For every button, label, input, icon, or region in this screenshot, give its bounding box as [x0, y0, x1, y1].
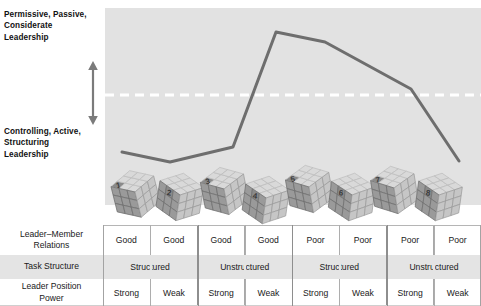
table-cell: Poor — [387, 225, 434, 255]
table-cell: Poor — [434, 225, 481, 255]
table-cell: Strong — [387, 279, 434, 306]
table-cell: Good — [245, 225, 292, 255]
table-row: Leader–MemberRelationsGoodGoodGoodGoodPo… — [0, 225, 481, 255]
row-label-2: Leader PositionPower — [0, 279, 103, 306]
table-cell: Good — [198, 225, 245, 255]
table-row: Leader PositionPowerStrongWeakStrongWeak… — [0, 279, 481, 306]
table-row: Task StructureStructuredUnstructuredStru… — [0, 255, 481, 279]
row-label-line: Leader Position — [0, 281, 103, 292]
row-label-1: Task Structure — [0, 255, 103, 279]
table-column-divider — [387, 225, 388, 306]
row-label-line: Task Structure — [0, 261, 103, 272]
cube-8: 8 — [403, 159, 475, 231]
table-cell: Strong — [103, 279, 150, 306]
table-cell: Good — [150, 225, 197, 255]
table-cell: Strong — [292, 279, 339, 306]
divider-mask — [339, 255, 341, 279]
table-cell: Weak — [434, 279, 481, 306]
row-label-line: Leader–Member — [0, 229, 103, 240]
divider-mask — [244, 255, 246, 279]
table-column-divider — [198, 225, 199, 306]
table-cell: Weak — [150, 279, 197, 306]
divider-mask — [433, 255, 435, 279]
row-label-0: Leader–MemberRelations — [0, 225, 103, 255]
table-cell: Strong — [198, 279, 245, 306]
table-cell: Poor — [339, 225, 386, 255]
row-label-line: Power — [0, 293, 103, 304]
divider-mask — [150, 255, 152, 279]
table-cell: Poor — [292, 225, 339, 255]
table-left-divider — [103, 225, 104, 306]
row-label-line: Relations — [0, 240, 103, 251]
table-cell: Weak — [339, 279, 386, 306]
table-cell: Good — [103, 225, 150, 255]
conditions-table: Leader–MemberRelationsGoodGoodGoodGoodPo… — [0, 225, 481, 306]
diagram-stage: Permissive, Passive, Considerate Leaders… — [0, 0, 481, 306]
conditions-table-wrapper: Leader–MemberRelationsGoodGoodGoodGoodPo… — [0, 225, 481, 306]
table-cell: Weak — [245, 279, 292, 306]
table-column-divider — [292, 225, 293, 306]
